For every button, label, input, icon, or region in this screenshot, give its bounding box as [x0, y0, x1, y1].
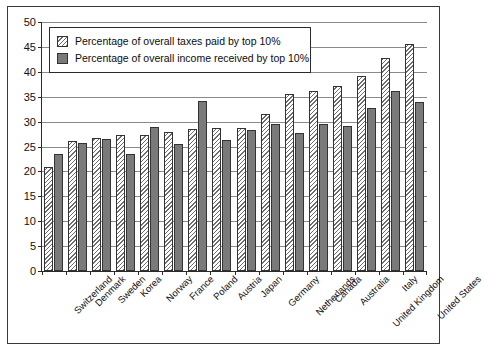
y-axis-tick-label: 45 [24, 41, 36, 52]
bar-group [355, 22, 379, 271]
y-axis-tick-label: 25 [24, 141, 36, 152]
bar-income [247, 130, 256, 271]
bar-income [126, 154, 135, 271]
legend-label-taxes: Percentage of overall taxes paid by top … [75, 36, 280, 47]
bar-taxes [237, 128, 246, 271]
bar-taxes [405, 44, 414, 271]
bar-taxes [92, 138, 101, 271]
bar-taxes [116, 135, 125, 271]
x-axis-tick-label: Austria [235, 274, 263, 302]
y-axis-tick-label: 30 [24, 116, 36, 127]
legend-item-taxes: Percentage of overall taxes paid by top … [57, 33, 303, 50]
bar-taxes [381, 58, 390, 271]
y-axis-tick-label: 35 [24, 91, 36, 102]
y-axis-tick-label: 15 [24, 191, 36, 202]
bar-taxes [212, 128, 221, 271]
solid-gray-swatch-icon [57, 53, 68, 64]
x-axis-tick-label: Italy [400, 274, 419, 293]
bar-taxes [140, 135, 149, 271]
bar-income [78, 143, 87, 271]
bar-taxes [357, 76, 366, 271]
x-axis-category-labels: SwitzerlandDenmarkSwedenKoreaNorwayFranc… [41, 274, 427, 344]
bar-income [391, 91, 400, 271]
bar-group [331, 22, 355, 271]
bar-income [174, 144, 183, 271]
bar-income [271, 124, 280, 271]
bar-income [295, 133, 304, 271]
x-axis-tick-label: Germany [286, 274, 320, 308]
x-axis-tick-label: Norway [164, 274, 193, 303]
bar-taxes [261, 114, 270, 271]
y-axis-tick-label: 50 [24, 17, 36, 28]
chart-legend: Percentage of overall taxes paid by top … [49, 27, 311, 73]
bar-taxes [309, 91, 318, 271]
y-axis-tick-label: 10 [24, 216, 36, 227]
bar-taxes [44, 167, 53, 271]
bar-income [150, 127, 159, 271]
bar-income [54, 154, 63, 271]
bar-income [415, 102, 424, 271]
bar-income [198, 101, 207, 271]
y-axis-tick-label: 20 [24, 166, 36, 177]
bar-income [343, 126, 352, 271]
legend-label-income: Percentage of overall income received by… [75, 53, 309, 64]
y-axis-tick-label: 40 [24, 66, 36, 77]
bar-group [379, 22, 403, 271]
x-axis-tick-label: Poland [211, 274, 239, 302]
bar-taxes [333, 86, 342, 271]
x-axis-tick-label: Japan [258, 274, 283, 299]
y-axis-tick-label: 5 [30, 241, 36, 252]
bar-income [222, 140, 231, 271]
bar-taxes [285, 94, 294, 271]
x-axis-tick-label: Australia [358, 274, 391, 307]
hatched-swatch-icon [57, 36, 68, 47]
legend-item-income: Percentage of overall income received by… [57, 50, 303, 67]
bar-group [403, 22, 427, 271]
bar-taxes [164, 132, 173, 271]
bar-taxes [188, 129, 197, 271]
y-axis-tick-label: 0 [30, 266, 36, 277]
bar-taxes [68, 141, 77, 271]
bar-income [102, 139, 111, 271]
bar-income [319, 124, 328, 271]
bar-income [367, 108, 376, 271]
